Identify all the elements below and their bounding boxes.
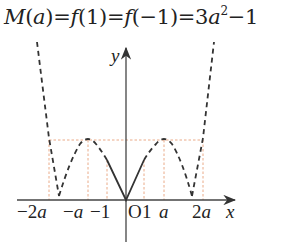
tick-2a: 2a: [192, 201, 211, 222]
tick-neg-a: −a: [63, 201, 83, 222]
tick-neg-2a: −2a: [17, 201, 47, 222]
origin-label: O: [128, 201, 142, 222]
tick-neg-1: −1: [90, 201, 110, 222]
tick-1: 1: [142, 201, 152, 222]
tick-a: a: [159, 201, 169, 222]
function-graph: y −2a −a −1 O 1 a 2a x: [0, 0, 292, 243]
x-axis-label: x: [225, 201, 235, 222]
y-axis-label: y: [109, 45, 120, 66]
